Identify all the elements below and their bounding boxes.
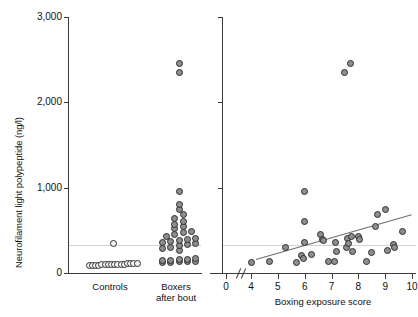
data-point-boxer	[176, 201, 183, 208]
category-label-boxers: Boxers after bout	[141, 281, 211, 303]
data-point-boxer	[333, 248, 340, 255]
data-point-boxer	[266, 258, 273, 265]
x-tick-label: 9	[370, 281, 400, 292]
x-tick-mark	[251, 274, 252, 279]
left-panel-x-axis	[68, 273, 202, 274]
data-point-boxer	[293, 259, 300, 266]
category-label-boxers-line1: Boxers	[161, 281, 191, 292]
data-point-boxer	[184, 256, 191, 263]
right-panel-reference-line	[223, 245, 416, 246]
data-point-boxer	[171, 215, 178, 222]
x-tick-label: 10	[397, 281, 418, 292]
data-point-boxer	[301, 218, 308, 225]
x-tick-label: 5	[263, 281, 293, 292]
x-tick-label: 7	[317, 281, 347, 292]
x-tick-label: 8	[343, 281, 373, 292]
data-point-boxer	[372, 223, 379, 230]
data-point-boxer	[391, 244, 398, 251]
data-point-boxer	[345, 240, 352, 247]
y-tick-mark	[218, 188, 223, 189]
x-tick-mark	[412, 274, 413, 279]
data-point-boxer	[374, 211, 381, 218]
data-point-boxer	[176, 69, 183, 76]
x-tick-label: 6	[290, 281, 320, 292]
y-tick-mark	[218, 102, 223, 103]
data-point-boxer	[167, 257, 174, 264]
y-tick-mark	[64, 188, 69, 189]
data-point-boxer	[176, 256, 183, 263]
figure-canvas: Neurofilament light polypeptide (ng/l) 3…	[0, 0, 418, 317]
y-tick-label: 0	[20, 267, 62, 278]
data-point-boxer	[347, 60, 354, 67]
data-point-boxer	[248, 259, 255, 266]
y-tick-mark	[64, 102, 69, 103]
x-tick-mark	[332, 274, 333, 279]
x-tick-mark	[305, 274, 306, 279]
y-tick-label: 3,000	[20, 11, 62, 22]
data-point-control	[110, 240, 117, 247]
data-point-boxer	[163, 233, 170, 240]
data-point-boxer	[363, 258, 370, 265]
data-point-boxer	[180, 229, 187, 236]
left-panel-tick-boxers	[0, 5, 1, 10]
data-point-boxer	[192, 235, 199, 242]
y-tick-label: 1,000	[20, 182, 62, 193]
data-point-boxer	[341, 69, 348, 76]
data-point-boxer	[176, 60, 183, 67]
data-point-boxer	[356, 236, 363, 243]
data-point-boxer	[331, 258, 338, 265]
data-point-boxer	[368, 249, 375, 256]
y-tick-mark	[218, 17, 223, 18]
x-axis-title: Boxing exposure score	[243, 296, 403, 307]
category-label-controls: Controls	[75, 281, 145, 292]
x-tick-label: 4	[236, 281, 266, 292]
x-tick-mark	[278, 274, 279, 279]
data-point-boxer	[184, 236, 191, 243]
data-point-boxer	[300, 255, 307, 262]
data-point-boxer	[349, 248, 356, 255]
y-tick-label: 2,000	[20, 96, 62, 107]
data-point-control	[134, 260, 141, 267]
data-point-boxer	[320, 237, 327, 244]
data-point-boxer	[180, 218, 187, 225]
x-tick-mark	[226, 274, 227, 279]
data-point-boxer	[176, 237, 183, 244]
left-panel-y-axis	[68, 17, 69, 273]
data-point-boxer	[308, 251, 315, 258]
data-point-boxer	[192, 240, 199, 247]
x-tick-mark	[385, 274, 386, 279]
y-tick-mark	[64, 17, 69, 18]
data-point-boxer	[301, 188, 308, 195]
data-point-boxer	[399, 228, 406, 235]
category-label-boxers-line2: after bout	[156, 292, 196, 303]
data-point-boxer	[382, 206, 389, 213]
data-point-boxer	[188, 228, 195, 235]
data-point-boxer	[176, 188, 183, 195]
category-label-controls-line1: Controls	[92, 281, 127, 292]
x-tick-mark	[358, 274, 359, 279]
right-panel-y-axis	[222, 17, 223, 273]
